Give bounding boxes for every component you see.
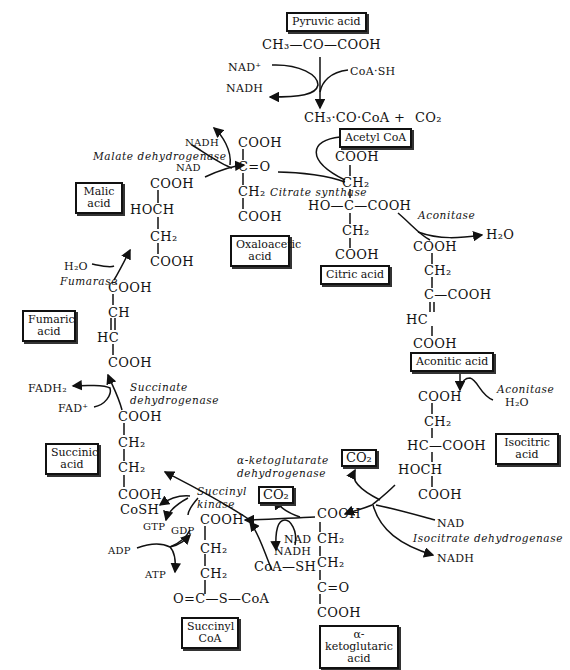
enzyme-isocitrate-dehydrogenase: Isocitrate dehydrogenase [413,531,563,545]
enzyme-aconitase-2: Aconitase [497,382,554,396]
cofactor-nad-isocitrate: NAD [437,517,464,531]
oxaloacetic-line-2: C=O [238,160,270,174]
citric-line-4: CH₂ [342,224,369,238]
krebs-cycle-diagram: Pyruvic acid CH₃—CO—COOH NAD⁺ NADH CoA·S… [0,0,570,670]
isocitric-line-5: COOH [418,488,462,502]
enzyme-succinyl-kinase-line-1: Succinyl [197,484,247,498]
co2-ketoglutarate: CO₂ [258,486,294,504]
cofactor-h2o-fumarase: H₂O [64,260,88,274]
label-citric-acid: Citric acid [320,265,390,285]
enzyme-akg-dh-line-1: α-ketoglutarate [237,453,329,467]
citric-line-1: COOH [335,150,379,164]
cofactor-h2o-aconitase: H₂O [486,228,514,242]
cofactor-nad-plus: NAD⁺ [228,61,261,75]
fumaric-line-2: CH [108,306,130,320]
label-succinic-acid: Succinic acid [45,443,99,475]
succinylcoa-line-1: COOH [200,513,244,527]
oxaloacetic-line-4: COOH [238,210,282,224]
malic-line-1: COOH [150,177,194,191]
aconitic-line-2: CH₂ [424,264,451,278]
ketoglutaric-line-2: CH₂ [317,532,344,546]
label-aconitic-acid: Aconitic acid [410,352,494,372]
enzyme-aconitase-1: Aconitase [418,208,475,222]
oxaloacetic-line-3: CH₂ [238,185,265,199]
aconitic-line-4: HC [406,313,428,327]
label-fumaric-acid: Fumaric acid [22,310,76,342]
enzyme-citrate-synthase: Citrate synthase [270,185,367,199]
cofactor-adp: ADP [108,544,131,558]
cofactor-coash: CoA·SH [350,65,395,79]
formula-pyruvic: CH₃—CO—COOH [262,38,381,52]
label-malic-acid: Malic acid [75,182,123,214]
aconitic-line-3: C—COOH [424,288,491,302]
cofactor-fad: FAD⁺ [58,402,88,416]
cofactor-cosh: CoSH [120,503,159,517]
ketoglutaric-line-5: COOH [317,606,361,620]
cofactor-atp: ATP [145,568,166,582]
succinic-line-3: CH₂ [118,461,145,475]
citric-line-3: HO—C—COOH [308,199,411,213]
succinylcoa-line-2: CH₂ [200,542,227,556]
cofactor-coash-akg: CoA—SH [254,560,316,574]
enzyme-malate-dehydrogenase: Malate dehydrogenase [93,149,227,163]
co2-isocitrate: CO₂ [341,449,377,467]
cofactor-nadh-akg: NADH [274,545,311,559]
succinic-line-2: CH₂ [118,436,145,450]
label-succinyl-coa: Succinyl CoA [181,617,239,649]
cofactor-gdp: GDP [171,524,195,538]
isocitric-line-4: HOCH [398,463,442,477]
label-ketoglutaric-acid: α-ketoglutaric acid [319,625,399,669]
cofactor-nadh-isocitrate: NADH [437,552,474,566]
cofactor-nadh-malate: NADH [185,136,219,150]
cofactor-h2o-aconitase-2: H₂O [505,396,529,410]
succinylcoa-line-3: CH₂ [200,567,227,581]
enzyme-succinyl-kinase-line-2: kinase [197,497,235,511]
aconitic-line-5: COOH [413,337,457,351]
citric-line-5: COOH [335,248,379,262]
ketoglutaric-line-1: COOH [317,507,361,521]
cofactor-nadh: NADH [226,82,263,96]
enzyme-succinate-dh-line-2: dehydrogenase [130,393,219,407]
formula-acetyl-coa: CH₃·CO·CoA + [304,111,405,125]
enzyme-succinate-dh-line-1: Succinate [130,380,188,394]
cofactor-fadh2: FADH₂ [28,382,67,396]
malic-line-2: HOCH [130,203,174,217]
cofactor-nad-malate: NAD [176,161,201,175]
acetyl-co2: CO₂ [415,111,442,125]
ketoglutaric-line-4: C=O [317,581,349,595]
cofactor-gtp: GTP [143,520,165,534]
label-oxaloacetic-acid: Oxaloacetic acid [230,235,290,267]
enzyme-fumarase: Fumarase [60,274,118,288]
isocitric-line-3: HC—COOH [407,439,486,453]
label-pyruvic-acid: Pyruvic acid [286,12,367,32]
malic-line-4: COOH [150,255,194,269]
aconitic-line-1: COOH [413,240,457,254]
enzyme-akg-dh-line-2: dehydrogenase [237,466,326,480]
label-isocitric-acid: Isocitric acid [495,433,559,465]
ketoglutaric-line-3: CH₂ [317,556,344,570]
succinylcoa-line-4: O=C—S—CoA [173,592,269,606]
succinic-line-4: COOH [118,488,162,502]
fumaric-line-3: HC [97,331,119,345]
isocitric-line-2: CH₂ [424,415,451,429]
isocitric-line-1: COOH [418,390,462,404]
succinic-line-1: COOH [118,410,162,424]
fumaric-line-4: COOH [108,356,152,370]
oxaloacetic-line-1: COOH [238,136,282,150]
malic-line-3: CH₂ [150,230,177,244]
label-acetyl-coa: Acetyl CoA [339,128,412,148]
